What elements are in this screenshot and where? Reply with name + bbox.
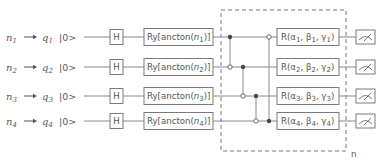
measurement-gate: [356, 89, 375, 103]
qubit-row-1: n1q1|0>HRy[ancton(n1)]R(α1, β1, γ1): [6, 29, 375, 46]
cnot-3-4-target: [254, 119, 258, 123]
cnot-1-2-control: [228, 35, 232, 39]
hadamard-label: H: [113, 91, 119, 101]
measurement-gate: [356, 114, 375, 128]
cnot-3-4-control: [254, 94, 258, 98]
qubit-label: q4: [42, 116, 53, 130]
arrow-head-icon: [33, 119, 37, 123]
input-label: n3: [6, 91, 17, 105]
cnot-2-3-target: [241, 94, 245, 98]
qubit-row-4: n4q4|0>HRy[ancton(n4)]R(α4, β4, γ4): [6, 113, 375, 130]
hadamard-label: H: [113, 62, 119, 72]
cnot-2-3-control: [241, 65, 245, 69]
arrow-head-icon: [33, 35, 37, 39]
qubit-row-2: n2q2|0>HRy[ancton(n2)]R(α2, β2, γ2): [6, 59, 375, 76]
initial-state: |0>: [59, 32, 76, 43]
cnot-4-1-target: [267, 35, 271, 39]
input-label: n4: [6, 116, 17, 130]
qubit-label: q2: [42, 62, 53, 76]
qubit-label: q1: [42, 32, 53, 46]
arrow-head-icon: [33, 94, 37, 98]
hadamard-label: H: [113, 32, 119, 42]
input-label: n1: [6, 32, 17, 46]
cnot-4-1-control: [267, 119, 271, 123]
initial-state: |0>: [59, 91, 76, 102]
quantum-circuit: n n1q1|0>HRy[ancton(n1)]R(α1, β1, γ1)n2q…: [0, 0, 391, 164]
entangling-layer: [228, 35, 271, 123]
initial-state: |0>: [59, 116, 76, 127]
arrow-head-icon: [33, 65, 37, 69]
qubit-label: q3: [42, 91, 53, 105]
hadamard-label: H: [113, 116, 119, 126]
measurement-gate: [356, 60, 375, 74]
repeat-block-label: n: [351, 149, 356, 159]
input-label: n2: [6, 62, 17, 76]
measurement-gate: [356, 30, 375, 44]
qubit-row-3: n3q3|0>HRy[ancton(n3)]R(α3, β3, γ3): [6, 88, 375, 105]
cnot-1-2-target: [228, 65, 232, 69]
initial-state: |0>: [59, 62, 76, 73]
